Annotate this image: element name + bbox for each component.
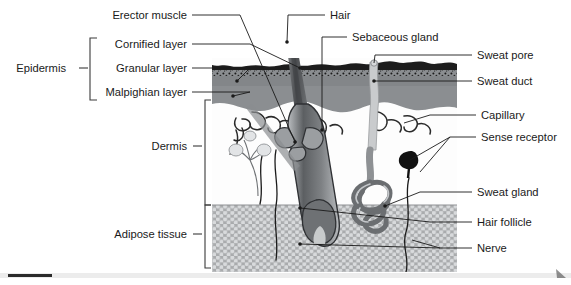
label-hair: Hair [330,9,351,21]
label-sweat-duct: Sweat duct [477,75,533,87]
label-dermis: Dermis [152,140,188,152]
label-hair-follicle: Hair follicle [477,216,532,228]
label-cornified-layer: Cornified layer [115,38,187,50]
epidermis-bracket [79,38,97,100]
dermis-adipose-bracket [193,100,211,268]
label-sweat-pore: Sweat pore [477,49,534,61]
sweat-duct-tube [369,150,370,182]
leader-hair [287,15,325,42]
left-label-group: Erector muscle Cornified layer Granular … [16,9,187,240]
label-capillary: Capillary [481,109,525,121]
label-granular-layer: Granular layer [116,62,187,74]
label-sweat-gland: Sweat gland [477,186,539,198]
label-epidermis: Epidermis [16,62,66,74]
label-sense-receptor: Sense receptor [481,131,557,143]
skin-cross-section-figure: Erector muscle Cornified layer Granular … [0,0,571,285]
scrollbar-track[interactable] [0,273,571,278]
label-malpighian-layer: Malpighian layer [106,86,188,98]
label-adipose-tissue: Adipose tissue [114,228,187,240]
label-erector-muscle: Erector muscle [112,9,187,21]
scrollbar-thumb[interactable] [8,274,52,277]
label-nerve: Nerve [477,242,507,254]
sense-receptor-stalk [408,168,409,178]
label-sebaceous-gland: Sebaceous gland [352,31,438,43]
